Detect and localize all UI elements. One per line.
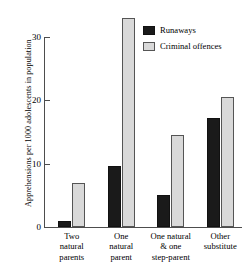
y-tick-0: 0 (44, 227, 50, 228)
bar-criminal-offences-1 (122, 18, 135, 227)
bar-criminal-offences-2 (171, 135, 184, 227)
legend-label: Criminal offences (160, 42, 222, 51)
y-tick-label: 20 (32, 96, 41, 105)
y-tick-mark (45, 37, 50, 38)
criminal-offences-swatch (143, 42, 155, 51)
y-tick-30: 30 (44, 37, 50, 38)
y-tick-label: 30 (32, 33, 41, 42)
y-tick-mark (45, 100, 50, 101)
bar-runaways-0 (58, 221, 71, 227)
legend-item-runaways: Runaways (143, 26, 222, 35)
y-tick-label: 10 (32, 159, 41, 168)
y-axis-line (44, 37, 45, 228)
y-tick-20: 20 (44, 100, 50, 101)
runaways-swatch (143, 26, 155, 35)
bar-criminal-offences-3 (221, 97, 234, 227)
bar-chart: Apprehensions per 1000 adolescents in po… (0, 0, 250, 279)
bar-runaways-3 (207, 118, 220, 227)
bar-runaways-2 (157, 195, 170, 227)
x-axis-line (44, 227, 242, 228)
x-category-label-3: Other substitute (186, 231, 250, 252)
bar-runaways-1 (108, 166, 121, 227)
y-axis-title: Apprehensions per 1000 adolescents in po… (25, 18, 33, 228)
chart-legend: RunawaysCriminal offences (143, 26, 222, 58)
legend-item-criminal-offences: Criminal offences (143, 42, 222, 51)
y-tick-mark (45, 227, 50, 228)
legend-label: Runaways (160, 26, 196, 35)
y-tick-mark (45, 164, 50, 165)
bar-criminal-offences-0 (72, 183, 85, 227)
y-tick-10: 10 (44, 164, 50, 165)
